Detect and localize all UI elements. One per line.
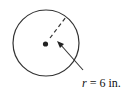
- radius-value: = 6 in.: [87, 76, 121, 90]
- center-dot: [43, 41, 48, 46]
- radius-dashed-line: [50, 17, 66, 38]
- arrow-shaft: [60, 44, 83, 70]
- circle-diagram: r = 6 in.: [0, 0, 131, 93]
- radius-label: r = 6 in.: [82, 76, 121, 90]
